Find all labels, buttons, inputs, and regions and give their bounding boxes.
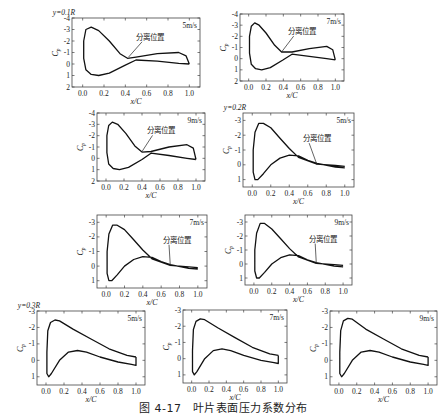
x-tick-label: 0.0 [334, 387, 344, 396]
cp-curve [340, 318, 428, 376]
y-tick-label: 0 [324, 356, 328, 365]
y-tick-label: 1 [324, 372, 328, 381]
wind-speed-label: 9m/s [419, 314, 434, 323]
x-tick-label: 1.0 [423, 387, 433, 396]
y-tick-label: -2 [322, 323, 328, 332]
cp-chart-9: 0.00.20.40.60.81.0-3-2-101x/CCp9m/s [0, 0, 447, 416]
x-tick-label: 0.8 [406, 387, 416, 396]
figure-caption: 图 4-17 叶片表面压力系数分布 [0, 399, 447, 415]
y-tick-label: -1 [322, 339, 328, 348]
y-axis-label: Cp [309, 344, 319, 352]
x-tick-label: 0.6 [388, 387, 398, 396]
y-tick-label: -3 [322, 307, 328, 316]
x-tick-label: 0.2 [352, 387, 362, 396]
